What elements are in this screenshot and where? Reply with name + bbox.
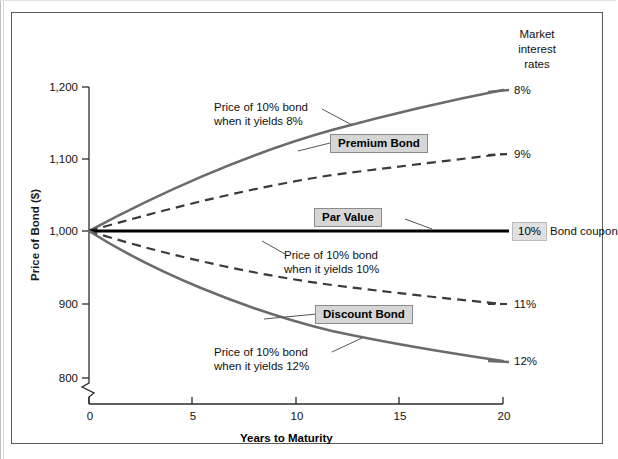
leader-line-premium-note [322,109,352,125]
series-curve-9pct [89,154,503,231]
discount-note-line2: when it yields 12% [214,359,309,374]
discount-bond-callout-box: Discount Bond [315,305,413,324]
page-edge-line-left [0,0,1,459]
leader-line-par-box [405,219,432,229]
legend-stub-12pct [488,361,509,362]
legend-title-line2: interest [500,42,574,58]
legend-label-8pct[interactable]: 8% [514,83,531,98]
y-axis-title: Price of Bond ($) [28,189,43,281]
premium-bond-callout-box: Premium Bond [330,134,428,153]
legend-stub-8pct [488,90,509,92]
legend-label-11pct[interactable]: 11% [514,297,536,312]
y-tick-label-1100: 1,100 [34,152,78,167]
x-tick-label-20: 20 [496,409,512,424]
bond-coupon-text: Bond coupon [550,224,618,239]
legend-stub-9pct [488,154,509,155]
y-tick-label-1200: 1,200 [34,80,78,95]
leader-line-par-note [262,241,285,254]
premium-note-line2: when it yields 8% [214,114,303,129]
page-edge-line-top [0,0,616,1]
leader-line-discount-note [332,338,362,352]
x-tick-label-0: 0 [85,409,95,424]
premium-note-line1: Price of 10% bond [214,100,308,115]
y-tick-label-800: 800 [34,371,78,386]
legend-title-line3: rates [500,57,574,73]
x-tick-label-5: 5 [188,409,198,424]
par-note-line2: when it yields 10% [284,262,379,277]
par-value-callout-box: Par Value [314,208,382,227]
x-tick-label-10: 10 [289,409,305,424]
x-axis [89,397,503,404]
legend-title-line1: Market [500,27,574,43]
chart-frame: 1,200 1,100 1,000 900 800 0 5 10 15 20 P… [11,12,603,444]
x-axis-title: Years to Maturity [240,431,333,446]
discount-note-line1: Price of 10% bond [214,345,308,360]
y-axis [82,87,94,404]
par-note-line1: Price of 10% bond [284,248,378,263]
page-edge-line-left-secondary [3,0,4,459]
legend-label-9pct[interactable]: 9% [514,147,531,162]
leader-line-premium-box [298,143,330,151]
x-tick-label-15: 15 [392,409,408,424]
y-tick-label-900: 900 [34,297,78,312]
legend-label-12pct[interactable]: 12% [514,354,537,369]
legend-label-10pct-coupon-box[interactable]: 10% [512,222,547,241]
